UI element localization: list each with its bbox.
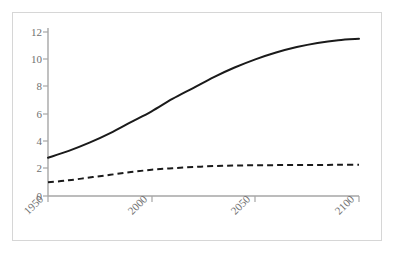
y-tick-label-6: 6 (18, 109, 42, 120)
y-tick-label-8: 8 (18, 81, 42, 92)
chart-plot-area (0, 0, 397, 256)
y-tick-label-10: 10 (18, 54, 42, 65)
line-series-dashed (48, 165, 359, 182)
y-tick-label-4: 4 (18, 136, 42, 147)
line-series-solid (48, 39, 359, 158)
y-tick-label-2: 2 (18, 163, 42, 174)
y-tick-label-12: 12 (18, 27, 42, 38)
chart-figure: 12 10 8 6 4 2 0 1950 2000 2050 2100 (0, 0, 397, 256)
x-axis-ticks (48, 196, 359, 202)
y-axis-ticks (43, 32, 48, 196)
